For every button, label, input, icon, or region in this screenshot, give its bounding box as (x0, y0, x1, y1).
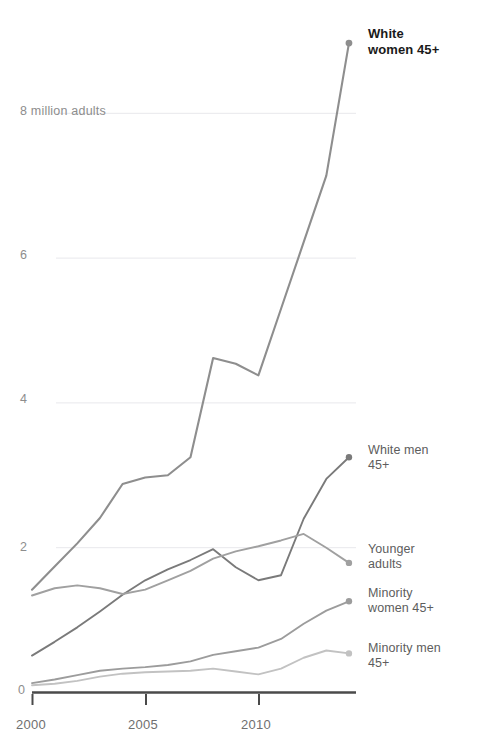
series-endpoint-4 (346, 650, 352, 656)
series-line-2 (32, 534, 349, 596)
x-axis-tick-label-0: 2000 (16, 717, 46, 732)
gridlines (56, 113, 356, 547)
series-lines (32, 43, 349, 685)
series-endpoint-1 (346, 454, 352, 460)
x-axis-tick-label-1: 2005 (128, 717, 158, 732)
series-label-2: Younger adults (368, 542, 415, 571)
y-axis-tick-label-2: 4 (20, 392, 27, 406)
y-axis-tick-label-3: 2 (20, 540, 27, 554)
series-label-3: Minority women 45+ (368, 586, 434, 615)
series-label-1: White men 45+ (368, 443, 429, 472)
series-endpoint-3 (346, 598, 352, 604)
series-endpoint-0 (346, 40, 353, 47)
series-endpoint-markers (346, 40, 353, 657)
series-label-0: White women 45+ (368, 26, 439, 57)
line-chart: 8 million adults6420 200020052010 White … (0, 0, 478, 750)
series-line-0 (32, 43, 349, 590)
series-label-4: Minority men 45+ (368, 641, 441, 670)
series-endpoint-2 (346, 560, 352, 566)
axes (32, 693, 356, 706)
series-line-4 (32, 651, 349, 686)
y-axis-tick-label-1: 6 (20, 248, 27, 262)
x-axis-tick-label-2: 2010 (241, 717, 271, 732)
y-axis-tick-label-4: 0 (18, 683, 25, 697)
y-axis-tick-label-0: 8 million adults (20, 104, 106, 118)
